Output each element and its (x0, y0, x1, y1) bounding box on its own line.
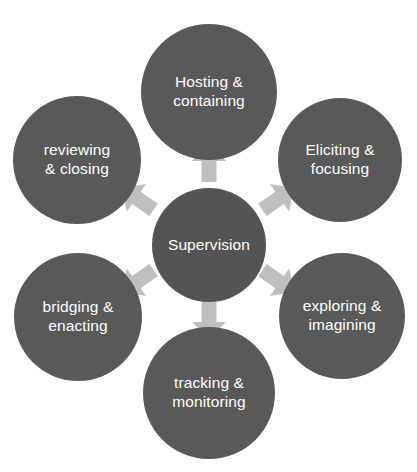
node-reviewing-closing: reviewing & closing (13, 96, 141, 224)
node-hosting-containing: Hosting & containing (141, 24, 277, 160)
node-exploring-imagining: exploring & imagining (279, 253, 405, 379)
node-bridging-enacting-label: bridging & enacting (43, 298, 114, 336)
node-eliciting-focusing-label: Eliciting & focusing (305, 141, 374, 179)
node-hosting-containing-label: Hosting & containing (173, 73, 245, 111)
node-bridging-enacting: bridging & enacting (14, 253, 142, 381)
node-tracking-monitoring: tracking & monitoring (143, 327, 275, 459)
node-supervision-hub: Supervision (152, 188, 266, 302)
node-reviewing-closing-label: reviewing & closing (44, 141, 110, 179)
node-tracking-monitoring-label: tracking & monitoring (172, 374, 245, 412)
supervision-cycle-diagram: Hosting & containing Eliciting & focusin… (0, 0, 417, 472)
node-supervision-hub-label: Supervision (168, 236, 250, 255)
node-eliciting-focusing: Eliciting & focusing (278, 98, 402, 222)
node-exploring-imagining-label: exploring & imagining (303, 297, 382, 335)
